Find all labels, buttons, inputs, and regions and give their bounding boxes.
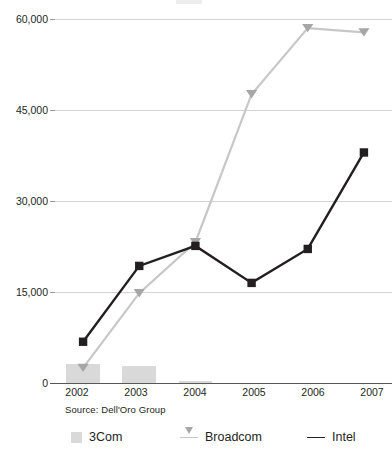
chart-legend: 3Com Broadcom Intel [0, 428, 392, 448]
legend-item-3com[interactable]: 3Com [71, 428, 122, 446]
broadcom-point-2002 [77, 364, 88, 372]
intel-point-2005 [247, 279, 255, 287]
x-tick-label: 2004 [183, 386, 206, 398]
x-axis-baseline [55, 383, 392, 384]
square-line-swatch-icon [307, 432, 325, 443]
broadcom-point-2003 [134, 289, 145, 297]
y-tick-label: 45,000 [0, 104, 48, 116]
y-tick-label: 15,000 [0, 286, 48, 298]
broadcom-point-2005 [246, 90, 257, 98]
x-tick-label: 2005 [242, 386, 265, 398]
plot-area [55, 19, 392, 383]
intel-point-2002 [79, 338, 87, 346]
x-axis: 2002 2003 2004 2005 2006 2007 [55, 386, 392, 402]
x-tick-label: 2007 [360, 386, 383, 398]
legend-label: Broadcom [205, 430, 262, 444]
x-tick-label: 2006 [301, 386, 324, 398]
intel-point-2003 [135, 262, 143, 270]
broadcom-markers [77, 24, 369, 372]
intel-point-2004 [191, 242, 199, 250]
triangle-line-swatch-icon [180, 432, 198, 443]
y-tick-label: 30,000 [0, 195, 48, 207]
legend-label: 3Com [89, 430, 122, 444]
intel-point-2006 [304, 245, 312, 253]
intel-point-2007 [360, 148, 368, 156]
legend-item-intel[interactable]: Intel [307, 428, 356, 446]
x-tick-label: 2002 [65, 386, 88, 398]
source-note: Source: Dell'Oro Group [65, 404, 166, 415]
broadcom-line [83, 28, 364, 368]
cropped-title-artifact [176, 0, 202, 4]
legend-item-broadcom[interactable]: Broadcom [180, 428, 262, 446]
chart-container: 60,000 45,000 30,000 15,000 0 2002 2003 … [0, 0, 392, 449]
y-axis: 60,000 45,000 30,000 15,000 0 [0, 19, 48, 383]
line-series-layer [55, 19, 392, 383]
x-tick-label: 2003 [124, 386, 147, 398]
y-tick-label: 60,000 [0, 13, 48, 25]
legend-label: Intel [332, 430, 356, 444]
bar-swatch-icon [71, 432, 82, 443]
y-tick-label: 0 [0, 377, 48, 389]
